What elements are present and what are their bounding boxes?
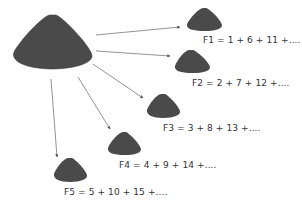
f4-cone-icon	[108, 132, 141, 155]
split-diagram: F1 = 1 + 6 + 11 +.... F2 = 2 + 7 + 12 +.…	[0, 0, 302, 207]
f5-cone-icon	[54, 158, 87, 182]
f2-label: F2 = 2 + 7 + 12 +....	[192, 78, 290, 88]
arrow-to-f3	[93, 64, 143, 98]
arrow-to-f2	[96, 51, 170, 56]
diagram-graphics	[0, 0, 302, 207]
f3-label: F3 = 3 + 8 + 13 +....	[163, 123, 261, 133]
f1-label: F1 = 1 + 6 + 11 +....	[203, 35, 301, 45]
f5-label: F5 = 5 + 10 + 15 +....	[64, 187, 167, 197]
f1-cone-icon	[187, 8, 222, 31]
f2-cone-icon	[175, 50, 210, 73]
f4-label: F4 = 4 + 9 + 14 +....	[119, 160, 217, 170]
f3-cone-icon	[147, 94, 180, 118]
arrow-to-f5	[51, 79, 57, 157]
big-cone-icon	[14, 15, 92, 69]
arrow-to-f4	[78, 77, 110, 129]
arrow-to-f1	[96, 27, 180, 35]
